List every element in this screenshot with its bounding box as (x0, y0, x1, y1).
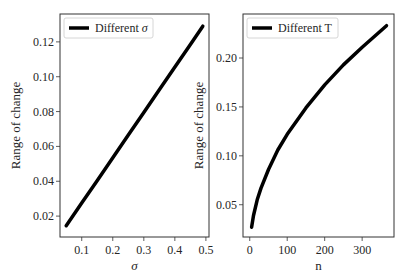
subplot-2: 01002003000.050.100.150.20nRange of chan… (191, 14, 394, 273)
series-line (66, 26, 203, 226)
y-tick-label: 0.04 (33, 174, 54, 188)
legend-label: Different σ (95, 21, 149, 35)
y-tick-label: 0.02 (33, 209, 54, 223)
series-line (252, 26, 387, 228)
x-axis-label: n (315, 258, 322, 273)
y-tick-label: 0.15 (216, 100, 237, 114)
axes-frame (243, 14, 394, 237)
y-tick-label: 0.12 (33, 35, 54, 49)
y-tick-label: 0.05 (216, 198, 237, 212)
x-tick-label: 0.3 (136, 243, 151, 257)
x-tick-label: 0.2 (105, 243, 120, 257)
y-tick-label: 0.06 (33, 139, 54, 153)
legend-label: Different T (278, 21, 333, 35)
y-tick-label: 0.10 (33, 70, 54, 84)
x-tick-label: 0.4 (167, 243, 182, 257)
y-axis-label: Range of change (191, 82, 206, 170)
figure: 0.10.20.30.40.50.020.040.060.080.100.12σ… (0, 0, 406, 279)
y-tick-label: 0.20 (216, 51, 237, 65)
x-tick-label: 200 (316, 243, 334, 257)
y-tick-label: 0.08 (33, 105, 54, 119)
legend: Different T (247, 18, 338, 38)
y-tick-label: 0.10 (216, 149, 237, 163)
x-tick-label: 0 (247, 243, 253, 257)
x-tick-label: 300 (353, 243, 371, 257)
subplot-1: 0.10.20.30.40.50.020.040.060.080.100.12σ… (8, 14, 213, 273)
x-tick-label: 0.5 (198, 243, 213, 257)
x-tick-label: 0.1 (74, 243, 89, 257)
y-axis-label: Range of change (8, 82, 23, 170)
legend: Different σ (64, 18, 153, 38)
x-tick-label: 100 (278, 243, 296, 257)
x-axis-label: σ (131, 258, 138, 273)
